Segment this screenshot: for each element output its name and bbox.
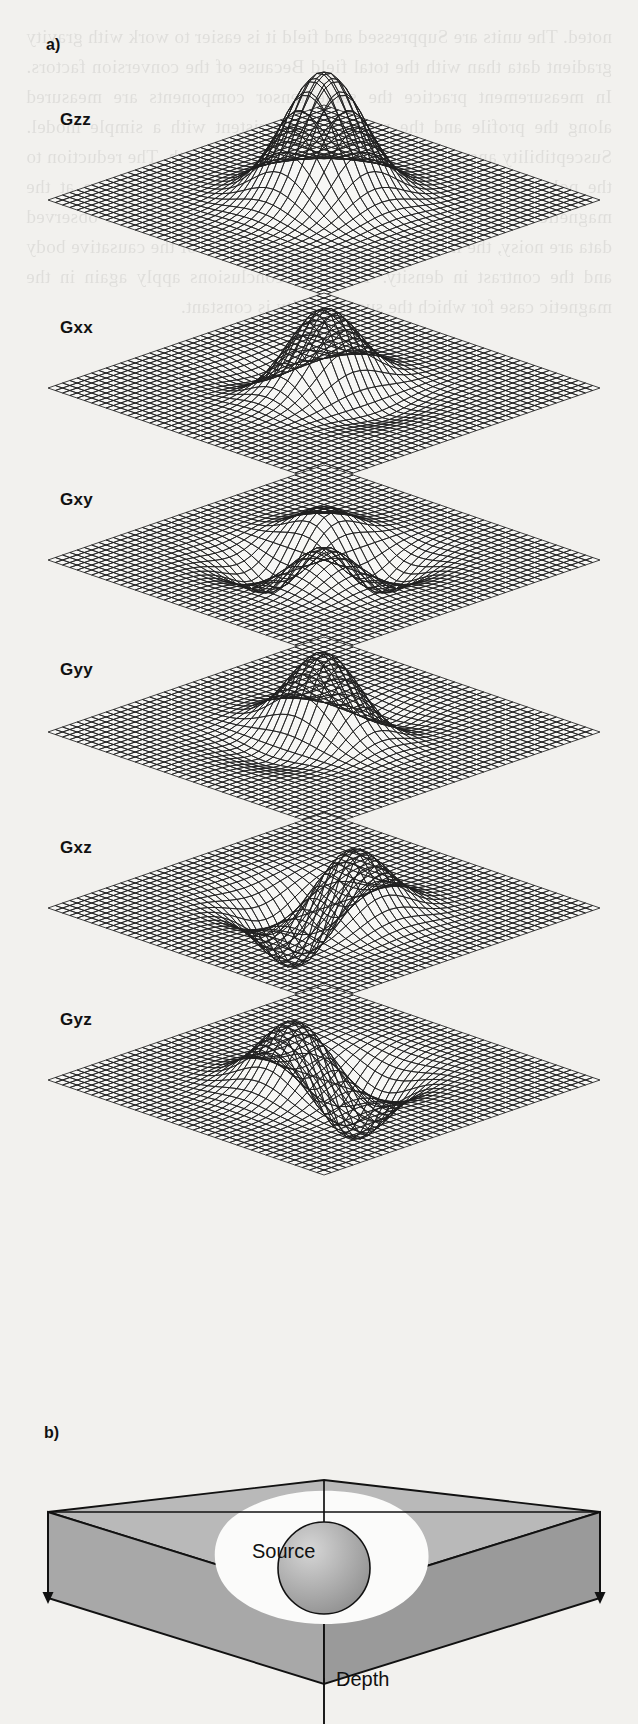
component-label-gzz: Gzz	[60, 110, 91, 130]
figure-gravity-gradient-tensor: a) b) Gzz Gxx Gxy Gyy Gxz Gyz Source Dep…	[0, 0, 638, 1724]
part-label-b: b)	[44, 1424, 59, 1442]
subsurface-block-diagram	[0, 1380, 638, 1724]
depth-label: Depth	[336, 1668, 389, 1691]
part-label-a: a)	[46, 36, 60, 54]
component-label-gxy: Gxy	[60, 490, 93, 510]
source-label: Source	[252, 1540, 315, 1563]
component-label-gyy: Gyy	[60, 660, 93, 680]
component-label-gxx: Gxx	[60, 318, 93, 338]
component-label-gyz: Gyz	[60, 1010, 92, 1030]
component-label-gxz: Gxz	[60, 838, 92, 858]
surface-gyz	[0, 928, 638, 1188]
